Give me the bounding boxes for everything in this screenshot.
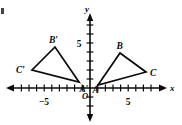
x-tick-label-neg5: −5: [39, 97, 49, 107]
x-axis-left-arrow: [6, 85, 14, 92]
y-axis-down-arrow: [87, 114, 93, 122]
triangle-abc: [98, 53, 146, 85]
coordinate-plane-figure: A B C A′ B′ C′ x y O −5 5 5: [0, 0, 182, 125]
x-axis-right-arrow: [159, 85, 167, 92]
triangle-a-prime-b-prime-c-prime: [32, 47, 79, 82]
vertex-label-b-prime: B′: [48, 35, 58, 45]
coordinate-plot-svg: A B C A′ B′ C′ x y O −5 5 5: [0, 0, 182, 125]
vertex-label-c: C: [150, 68, 157, 78]
y-tick-label-5: 5: [77, 39, 82, 49]
vertex-label-c-prime: C′: [16, 65, 25, 75]
x-tick-label-5: 5: [126, 97, 131, 107]
y-axis-label: y: [84, 4, 90, 14]
vertex-label-a: A: [92, 85, 99, 95]
vertex-label-b: B: [116, 41, 123, 51]
x-axis-label: x: [169, 83, 175, 93]
origin-label: O: [82, 91, 88, 101]
y-axis-up-arrow: [87, 13, 93, 21]
